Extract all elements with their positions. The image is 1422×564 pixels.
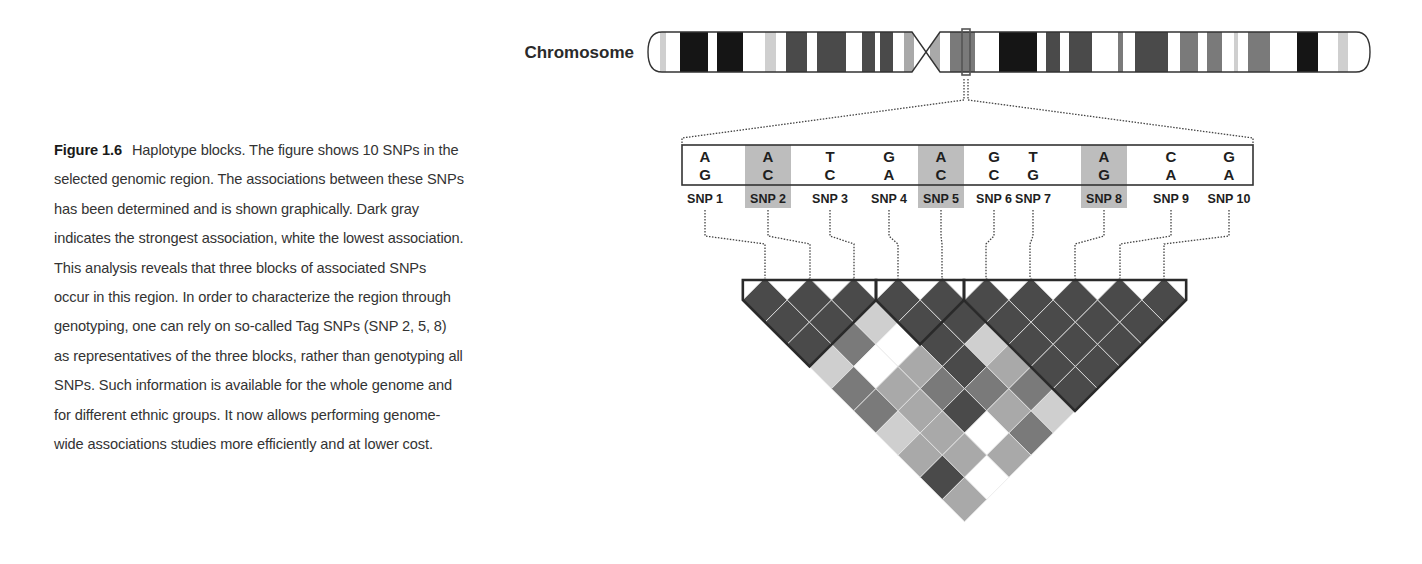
- snp-label: SNP 6: [976, 192, 1012, 206]
- snp-connector-lines: [705, 210, 1229, 278]
- allele-top: G: [1223, 148, 1235, 165]
- allele-top: C: [1166, 148, 1177, 165]
- allele-top: G: [988, 148, 1000, 165]
- chromosome-band: [660, 32, 666, 72]
- chromosome-band: [786, 32, 807, 72]
- chromosome-band: [880, 32, 893, 72]
- snp-label: SNP 8: [1086, 192, 1122, 206]
- chromosome-band: [1297, 32, 1318, 72]
- allele-top: T: [1028, 148, 1037, 165]
- chromosome-band: [680, 32, 708, 72]
- allele-bottom: A: [884, 166, 895, 183]
- chromosome-band: [1234, 32, 1238, 72]
- snp-label: SNP 2: [750, 192, 786, 206]
- allele-bottom: G: [1098, 166, 1110, 183]
- allele-bottom: C: [763, 166, 774, 183]
- haplotype-figure: Chromosome AGSNP 1ACSNP 2TCSNP 3GASNP 4A…: [0, 0, 1422, 564]
- chromosome-label: Chromosome: [524, 43, 634, 62]
- snp-label: SNP 4: [871, 192, 907, 206]
- allele-top: A: [1099, 148, 1110, 165]
- snp-connector: [1164, 210, 1229, 278]
- snp-label: SNP 3: [812, 192, 848, 206]
- snp-label: SNP 10: [1208, 192, 1251, 206]
- snp-connector: [705, 210, 765, 278]
- allele-top: A: [936, 148, 947, 165]
- chromosome-ideogram: [648, 29, 1370, 75]
- allele-top: A: [700, 148, 711, 165]
- allele-top: G: [883, 148, 895, 165]
- snp-label: SNP 9: [1153, 192, 1189, 206]
- allele-bottom: G: [699, 166, 711, 183]
- allele-bottom: C: [825, 166, 836, 183]
- snp-allele-box: AGSNP 1ACSNP 2TCSNP 3GASNP 4ACSNP 5GCSNP…: [682, 145, 1253, 208]
- zoom-connector-lines: [682, 79, 1253, 145]
- ld-heatmap: [743, 278, 1186, 522]
- chromosome-band: [765, 32, 776, 72]
- snp-label: SNP 1: [687, 192, 723, 206]
- chromosome-band: [1207, 32, 1222, 72]
- allele-top: A: [763, 148, 774, 165]
- chromosome-band: [1338, 32, 1348, 72]
- snp-connector: [889, 210, 898, 278]
- snp-connector: [768, 210, 810, 278]
- allele-bottom: G: [1027, 166, 1039, 183]
- chromosome-band: [862, 32, 875, 72]
- chromosome-band: [1180, 32, 1198, 72]
- allele-bottom: C: [989, 166, 1000, 183]
- snp-connector: [986, 210, 994, 278]
- chromosome-band: [1069, 32, 1092, 72]
- snp-label: SNP 5: [923, 192, 959, 206]
- chromosome-band: [1135, 32, 1168, 72]
- snp-connector: [941, 210, 942, 278]
- snp-connector: [1030, 210, 1033, 278]
- snp-connector: [1075, 210, 1104, 278]
- chromosome-band: [717, 32, 743, 72]
- allele-bottom: C: [936, 166, 947, 183]
- chromosome-band: [1118, 32, 1123, 72]
- snp-label: SNP 7: [1015, 192, 1051, 206]
- allele-bottom: A: [1224, 166, 1235, 183]
- allele-bottom: A: [1166, 166, 1177, 183]
- chromosome-band: [904, 32, 914, 72]
- snp-connector: [830, 210, 854, 278]
- allele-top: T: [825, 148, 834, 165]
- chromosome-band: [1046, 32, 1060, 72]
- chromosome-band: [1248, 32, 1270, 72]
- chromosome-band: [817, 32, 846, 72]
- chromosome-band: [999, 32, 1037, 72]
